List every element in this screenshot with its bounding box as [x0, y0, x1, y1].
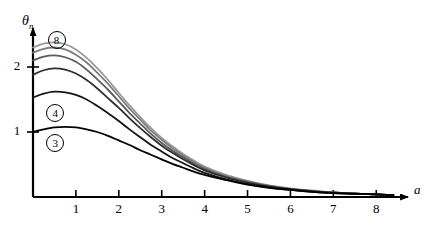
x-tick-label: 5: [240, 201, 256, 217]
curve-label-8: 8: [48, 31, 66, 49]
x-tick-label: 1: [68, 201, 84, 217]
curve-label-4: 4: [46, 104, 64, 122]
axis-ticks: [27, 67, 376, 197]
curve-series-4: [33, 92, 393, 195]
axes: [33, 28, 408, 197]
x-tick-label: 3: [154, 201, 170, 217]
x-tick-label: 2: [111, 201, 127, 217]
data-curves: [33, 42, 393, 195]
x-tick-label: 8: [368, 201, 384, 217]
x-tick-label: 4: [197, 201, 213, 217]
y-tick-label: 1: [9, 123, 25, 139]
x-tick-label: 7: [325, 201, 341, 217]
theta-n-vs-a-line-chart: [0, 0, 431, 227]
y-axis-label: θn: [22, 13, 33, 31]
curve-series-3: [33, 127, 393, 195]
y-tick-label: 2: [9, 58, 25, 74]
x-axis-label: a: [414, 182, 421, 198]
x-tick-label: 6: [282, 201, 298, 217]
